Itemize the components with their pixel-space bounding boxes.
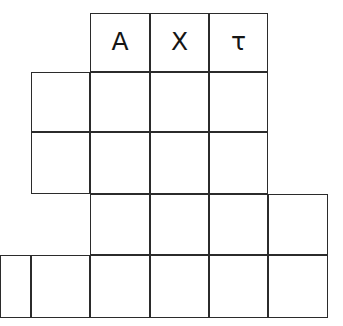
grid-cell-r0-c3[interactable]: X <box>150 13 209 72</box>
grid-cell-r2-c1[interactable] <box>31 132 90 194</box>
grid-cell-r0-c2[interactable]: A <box>90 13 150 72</box>
grid-cell-r4-c4[interactable] <box>209 255 268 318</box>
cell-letter: A <box>111 29 128 54</box>
grid-cell-r1-c2[interactable] <box>90 72 150 132</box>
grid-cell-r2-c4[interactable] <box>209 132 268 194</box>
grid-cell-r4-c3[interactable] <box>150 255 209 318</box>
grid-cell-r0-c4[interactable]: τ <box>209 13 268 72</box>
grid-cell-r3-c4[interactable] <box>209 194 268 255</box>
cell-letter: X <box>171 29 188 54</box>
grid-cell-r2-c3[interactable] <box>150 132 209 194</box>
grid-cell-r1-c4[interactable] <box>209 72 268 132</box>
grid-cell-r2-c2[interactable] <box>90 132 150 194</box>
puzzle-grid: AXτ <box>0 0 343 326</box>
grid-cell-r4-c0[interactable] <box>0 255 31 318</box>
grid-cell-r4-c2[interactable] <box>90 255 150 318</box>
grid-cell-r4-c1[interactable] <box>31 255 90 318</box>
grid-cell-r1-c3[interactable] <box>150 72 209 132</box>
grid-cell-r3-c3[interactable] <box>150 194 209 255</box>
grid-cell-r3-c5[interactable] <box>268 194 328 255</box>
cell-letter: τ <box>231 29 246 54</box>
grid-cell-r1-c1[interactable] <box>31 72 90 132</box>
grid-cell-r4-c5[interactable] <box>268 255 328 318</box>
grid-cell-r3-c2[interactable] <box>90 194 150 255</box>
